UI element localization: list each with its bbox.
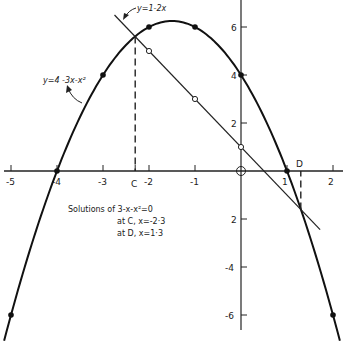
x-tick-label: 2 xyxy=(328,177,334,187)
curve-label-group: y=4 -3x-x² xyxy=(42,76,86,103)
line-point xyxy=(238,144,243,149)
x-tick-label: 1 xyxy=(282,177,288,187)
point-c-label: C xyxy=(131,179,137,189)
y-tick-label: 2 xyxy=(231,119,237,129)
parabola-point xyxy=(146,24,152,30)
y-tick-label: -4 xyxy=(225,263,234,273)
curve-equation-label: y=4 -3x-x² xyxy=(42,76,86,85)
axes xyxy=(4,0,343,330)
parabola-point xyxy=(54,168,60,174)
x-tick-label: -2 xyxy=(144,177,153,187)
solution-c: at C, x=-2·3 xyxy=(117,217,165,226)
chart: -5-4-3-2-112 6422-4-6 C D y=1-2x y=4 -3x… xyxy=(0,0,346,342)
arrowhead-icon xyxy=(66,85,72,93)
solutions-title: Solutions of 3-x-x²=0 xyxy=(68,205,153,214)
x-tick-label: -1 xyxy=(190,177,199,187)
y-tick-label: -6 xyxy=(225,311,234,321)
line-point xyxy=(146,48,151,53)
parabola-point xyxy=(284,168,290,174)
parabola-point xyxy=(100,72,106,78)
parabola-point xyxy=(330,312,336,318)
y-tick-label: 2 xyxy=(231,215,237,225)
solutions-note: Solutions of 3-x-x²=0 at C, x=-2·3 at D,… xyxy=(68,205,165,238)
straight-line xyxy=(115,15,321,230)
solution-d: at D, x=1·3 xyxy=(117,229,163,238)
arrowhead-icon xyxy=(123,13,129,20)
x-tick-label: -5 xyxy=(6,177,15,187)
line-point xyxy=(192,96,197,101)
line-equation-label: y=1-2x xyxy=(136,4,167,13)
y-tick-label: 4 xyxy=(231,71,237,81)
parabola-point xyxy=(192,24,198,30)
line-label-group: y=1-2x xyxy=(123,4,167,20)
point-d-label: D xyxy=(296,159,303,169)
x-tick-label: -3 xyxy=(98,177,107,187)
parabola-point xyxy=(8,312,14,318)
y-tick-label: 6 xyxy=(231,23,237,33)
parabola-point xyxy=(238,72,244,78)
